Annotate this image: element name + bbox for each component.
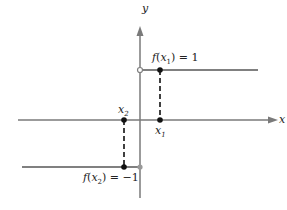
y-axis-arrow-icon [137,26,144,36]
fx1-label: f(x1) = 1 [152,51,199,66]
x-axis-label: x [279,113,285,126]
closed-gray-circle-icon [137,164,142,169]
x2-label: x2 [118,103,129,118]
step-function-diagram: y x f(x1) = 1 x1 x2 f(x2) = −1 [0,0,287,210]
open-circle-icon [138,68,143,73]
dot-x1 [157,117,163,123]
y-axis-label: y [142,2,148,15]
fx2-label: f(x2) = −1 [83,171,139,186]
x-axis-arrow-icon [268,117,278,124]
dot-fx1 [157,67,163,73]
dot-fx2 [121,164,127,170]
graph-canvas [0,0,287,210]
x1-label: x1 [155,124,166,139]
